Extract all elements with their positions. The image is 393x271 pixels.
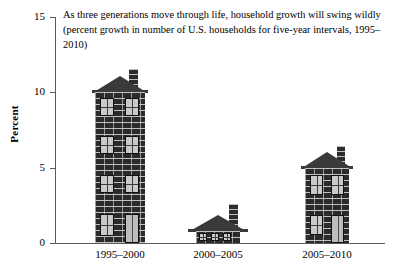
x-tick-label-2005-2010: 2005–2010	[267, 248, 387, 260]
window	[100, 136, 114, 154]
y-axis-line	[55, 17, 56, 244]
window	[199, 233, 207, 241]
window	[310, 175, 323, 195]
house-body	[95, 92, 145, 243]
house-body	[196, 231, 240, 243]
bar-1995-2000	[95, 92, 145, 243]
y-tick-label-15: 15	[5, 10, 45, 22]
window	[125, 98, 139, 116]
bar-2005-2010	[305, 168, 349, 243]
y-tick-0	[50, 243, 56, 244]
y-tick-label-0: 0	[5, 236, 45, 248]
y-tick-label-10: 10	[5, 85, 45, 97]
door-icon	[331, 215, 344, 243]
y-tick-5	[50, 168, 56, 169]
window	[125, 175, 139, 193]
window	[310, 215, 323, 235]
door-icon	[125, 214, 139, 243]
window	[125, 136, 139, 154]
window	[223, 233, 231, 241]
y-axis-label: Percent	[8, 89, 20, 159]
window	[331, 175, 344, 195]
y-tick-label-5: 5	[5, 161, 45, 173]
x-tick-label-2000-2005: 2000–2005	[158, 248, 278, 260]
bar-2000-2005	[196, 231, 240, 243]
window	[100, 98, 114, 116]
window	[211, 233, 219, 241]
chart-title: As three generations move through life, …	[63, 7, 385, 53]
house-body	[305, 168, 349, 243]
window	[100, 214, 114, 236]
chart-container: Percent As three generations move throug…	[0, 0, 393, 271]
window	[100, 175, 114, 193]
y-tick-10	[50, 92, 56, 93]
x-axis-line	[55, 243, 385, 244]
y-tick-15	[50, 17, 56, 18]
